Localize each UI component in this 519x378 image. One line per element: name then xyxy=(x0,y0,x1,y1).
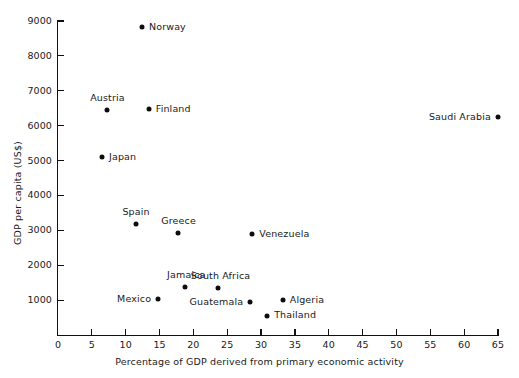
x-axis-tick-label: 35 xyxy=(280,339,310,350)
x-axis-tick xyxy=(125,329,126,335)
data-point-marker[interactable] xyxy=(215,286,220,291)
x-axis-tick-label: 40 xyxy=(314,339,344,350)
y-axis-tick xyxy=(58,300,64,301)
y-axis-tick-label: 1000 xyxy=(12,294,52,305)
y-axis-tick xyxy=(58,230,64,231)
scatter-plot-figure: 1000200030004000500060007000800090000510… xyxy=(0,0,519,378)
x-axis-line xyxy=(57,335,499,336)
y-axis-tick-label: 9000 xyxy=(12,15,52,26)
data-point-label: Thailand xyxy=(274,309,316,320)
x-axis-tick-label: 55 xyxy=(415,339,445,350)
x-axis-tick xyxy=(159,329,160,335)
y-axis-tick-label: 2000 xyxy=(12,259,52,270)
x-axis-tick-label: 50 xyxy=(381,339,411,350)
x-axis-tick-label: 20 xyxy=(178,339,208,350)
data-point-marker[interactable] xyxy=(175,231,180,236)
data-point-marker[interactable] xyxy=(133,222,138,227)
x-axis-tick xyxy=(91,329,92,335)
y-axis-tick-label: 7000 xyxy=(12,85,52,96)
data-point-marker[interactable] xyxy=(104,108,109,113)
x-axis-tick-label: 45 xyxy=(348,339,378,350)
data-point-marker[interactable] xyxy=(280,298,285,303)
data-point-label: Spain xyxy=(122,206,149,217)
x-axis-title: Percentage of GDP derived from primary e… xyxy=(0,356,519,367)
x-axis-tick-label: 15 xyxy=(145,339,175,350)
data-point-label: Algeria xyxy=(290,294,324,305)
data-point-label: Venezuela xyxy=(259,228,309,239)
y-axis-tick-label: 8000 xyxy=(12,50,52,61)
x-axis-tick xyxy=(362,329,363,335)
y-axis-title: GDP per capita (US$) xyxy=(12,141,23,245)
y-axis-tick xyxy=(58,195,64,196)
x-axis-tick xyxy=(328,329,329,335)
x-axis-tick-label: 65 xyxy=(483,339,513,350)
data-point-label: Finland xyxy=(156,103,191,114)
y-axis-tick-label: 6000 xyxy=(12,120,52,131)
x-axis-tick xyxy=(430,329,431,335)
data-point-label: Greece xyxy=(161,215,196,226)
data-point-marker[interactable] xyxy=(183,285,188,290)
y-axis-tick xyxy=(58,160,64,161)
x-axis-tick xyxy=(260,329,261,335)
x-axis-tick xyxy=(227,329,228,335)
data-point-label: Mexico xyxy=(117,293,151,304)
data-point-marker[interactable] xyxy=(139,25,144,30)
x-axis-tick-label: 60 xyxy=(449,339,479,350)
data-point-label: South Africa xyxy=(191,270,251,281)
data-point-marker[interactable] xyxy=(156,297,161,302)
x-axis-tick xyxy=(294,329,295,335)
y-axis-line xyxy=(57,20,58,336)
x-axis-tick xyxy=(396,329,397,335)
data-point-marker[interactable] xyxy=(248,300,253,305)
data-point-label: Saudi Arabia xyxy=(429,111,491,122)
x-axis-tick-label: 0 xyxy=(43,339,73,350)
data-point-marker[interactable] xyxy=(496,115,501,120)
data-point-marker[interactable] xyxy=(100,155,105,160)
y-axis-tick xyxy=(58,90,64,91)
x-axis-tick-label: 10 xyxy=(111,339,141,350)
data-point-label: Guatemala xyxy=(190,296,244,307)
x-axis-tick-label: 5 xyxy=(77,339,107,350)
x-axis-tick-label: 25 xyxy=(212,339,242,350)
data-point-marker[interactable] xyxy=(250,232,255,237)
x-axis-tick xyxy=(497,329,498,335)
x-axis-tick-label: 30 xyxy=(246,339,276,350)
data-point-marker[interactable] xyxy=(146,107,151,112)
data-point-label: Japan xyxy=(109,151,136,162)
x-axis-tick xyxy=(464,329,465,335)
data-point-marker[interactable] xyxy=(265,313,270,318)
data-point-label: Austria xyxy=(90,92,125,103)
y-axis-tick xyxy=(58,265,64,266)
y-axis-tick xyxy=(58,55,64,56)
y-axis-tick xyxy=(58,20,64,21)
y-axis-tick xyxy=(58,125,64,126)
x-axis-tick xyxy=(193,329,194,335)
data-point-label: Norway xyxy=(149,21,186,32)
